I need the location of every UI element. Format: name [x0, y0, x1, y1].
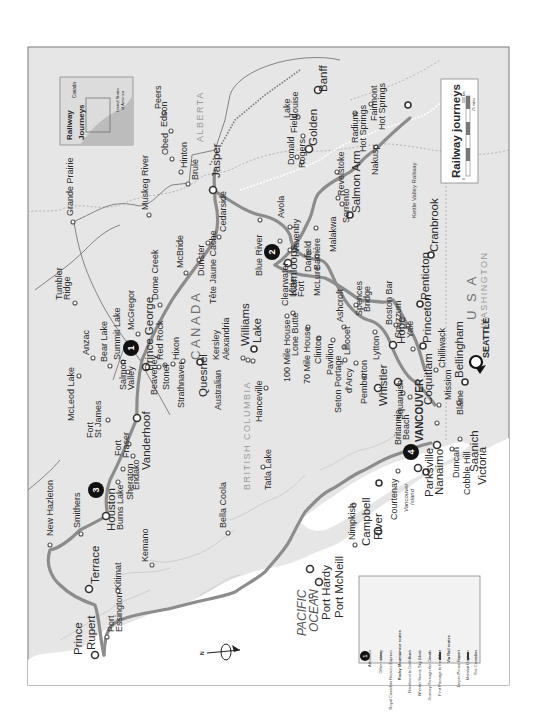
railway-journeys-map: 1 2 3 4 Railway Journeys Canada United S… [0, 0, 534, 712]
region-label-usa: U S A [464, 274, 479, 320]
region-label-washington: WASHINGTON [479, 251, 489, 328]
label-golden: Golden [307, 109, 319, 146]
svg-text:100 km: 100 km [462, 91, 466, 103]
label-salmon-arm: Salmon Arm [350, 150, 362, 213]
svg-text:Stoner: Stoner [161, 363, 171, 390]
legend-heading: Via Rail routes [446, 634, 451, 662]
svg-text:McLeod Lake: McLeod Lake [66, 367, 76, 421]
svg-text:Louise: Louise [290, 91, 300, 118]
svg-text:Bella Coola: Bella Coola [218, 482, 228, 528]
svg-text:Cobble Hill: Cobble Hill [462, 451, 472, 495]
label-cranbrook: Cranbrook [428, 198, 440, 252]
map-title-box: Railway journeys 0 100 km 75 miles [441, 79, 478, 183]
svg-text:Muskeg River: Muskeg River [140, 155, 150, 210]
svg-text:Dunster: Dunster [196, 244, 206, 276]
svg-text:Spuzzum: Spuzzum [393, 300, 403, 338]
kettle-valley-railway-label: Kettle Valley Railway [411, 162, 417, 218]
svg-text:Fraser: Fraser [121, 432, 131, 458]
legend-item-label: Jasper-Prince Rupert [456, 649, 461, 688]
svg-text:4: 4 [406, 449, 416, 454]
svg-text:Journeys: Journeys [77, 104, 86, 140]
svg-text:Courtenay: Courtenay [389, 478, 399, 520]
svg-text:Edson: Edson [159, 101, 169, 127]
svg-text:Obed: Obed [160, 133, 170, 155]
svg-text:Australian: Australian [213, 370, 223, 410]
label-prince-rupert-1: Prince [72, 622, 84, 655]
legend-item-label: Journey Through the Clouds [427, 650, 432, 700]
label-princeton: Princeton [421, 294, 433, 343]
svg-text:Burns Lake: Burns Lake [115, 484, 125, 530]
legend-item-label: First Passage to the West [437, 649, 442, 696]
region-label-canada: CANADA [188, 291, 203, 360]
legend-item-label: Malahat Dayliner [465, 649, 470, 680]
svg-text:Kitimat: Kitimat [113, 562, 123, 590]
region-label-british-columbia: BRITISH COLUMBIA [242, 381, 252, 490]
label-port-mcneill: Port McNeill [333, 556, 345, 618]
route-badge-1: 1 [123, 340, 139, 356]
svg-text:Clinton: Clinton [313, 336, 323, 364]
label-banff: Banff [317, 65, 329, 92]
svg-text:Bridge: Bridge [362, 286, 372, 312]
svg-text:Nakusp: Nakusp [370, 144, 380, 175]
svg-text:Chilliwack: Chilliwack [437, 327, 447, 368]
svg-text:SEATTLE: SEATTLE [481, 318, 491, 358]
label-williams-lake-2: Lake [251, 318, 263, 343]
svg-text:Hot Springs: Hot Springs [358, 104, 368, 152]
svg-text:Essington: Essington [114, 592, 124, 632]
svg-text:Hinton: Hinton [179, 142, 189, 168]
svg-text:Rogers: Rogers [297, 138, 307, 168]
svg-text:Barrière: Barrière [312, 238, 322, 270]
svg-text:Railway journeys: Railway journeys [450, 84, 462, 178]
svg-text:Blaine: Blaine [455, 390, 465, 415]
svg-text:Kemano: Kemano [140, 528, 150, 562]
svg-text:Dome Creek: Dome Creek [150, 249, 160, 300]
svg-text:Red Rock: Red Rock [155, 320, 165, 360]
label-penticton: Penticton [419, 252, 431, 300]
svg-text:St James: St James [93, 400, 103, 438]
svg-text:Blue River: Blue River [254, 234, 264, 276]
svg-text:Lillooet: Lillooet [342, 326, 352, 355]
svg-text:of America: of America [120, 90, 125, 110]
svg-text:Mission: Mission [443, 369, 453, 400]
legend-item-label: Attraction [367, 650, 372, 667]
svg-text:Lone Butte: Lone Butte [290, 312, 300, 356]
svg-text:0: 0 [462, 178, 466, 180]
svg-text:Yale: Yale [405, 321, 415, 338]
label-coquitlam: Coquitlam [422, 353, 434, 405]
label-terrace: Terrace [89, 546, 101, 584]
svg-text:Tatla Lake: Tatla Lake [263, 449, 273, 490]
label-jasper: Jasper [210, 143, 222, 178]
svg-text:Hixon: Hixon [171, 337, 181, 360]
svg-text:Hot Springs: Hot Springs [377, 82, 387, 130]
svg-text:Nimpkish: Nimpkish [347, 503, 357, 540]
legend-heading: Rocky Mountaineer routes [397, 629, 402, 680]
label-williams-lake-1: Williams [239, 303, 251, 346]
svg-text:d'Arcy: d'Arcy [344, 368, 354, 393]
label-parksville: Parksville [423, 448, 435, 497]
legend-item-label: Whistler Sea to Sky Climb [417, 649, 422, 696]
svg-text:Revelstoke: Revelstoke [336, 151, 346, 196]
label-campbell-river-2: River [372, 513, 384, 540]
region-label-alberta: ALBERTA [195, 91, 205, 142]
route-badge-2: 2 [264, 244, 280, 260]
svg-text:Grande Prairie: Grande Prairie [65, 157, 75, 216]
svg-text:Alexandria: Alexandria [221, 317, 231, 360]
svg-text:New Hazleton: New Hazleton [45, 480, 55, 536]
svg-text:McBride: McBride [175, 235, 185, 268]
svg-text:Tête Jaune Cache: Tête Jaune Cache [208, 230, 218, 304]
legend-item-label: Rainforest to Gold Rush [407, 650, 412, 693]
label-prince-rupert-2: Rupert [85, 615, 97, 650]
svg-text:Seton Portage: Seton Portage [333, 355, 343, 413]
svg-text:Pemberton: Pemberton [359, 360, 369, 404]
svg-text:Smithers: Smithers [72, 492, 82, 528]
svg-text:Brulé: Brulé [190, 159, 200, 180]
svg-text:2: 2 [267, 249, 277, 254]
svg-text:Hanceville: Hanceville [254, 380, 264, 422]
label-bellingham: Bellingham [453, 321, 465, 378]
svg-text:75 miles: 75 miles [472, 98, 476, 111]
svg-text:Strathnaver: Strathnaver [176, 361, 186, 408]
label-campbell-river-1: Campbell [360, 497, 372, 546]
route-badge-4: 4 [403, 444, 419, 460]
label-port-hardy: Port Hardy [320, 565, 332, 620]
svg-text:1: 1 [126, 345, 136, 350]
